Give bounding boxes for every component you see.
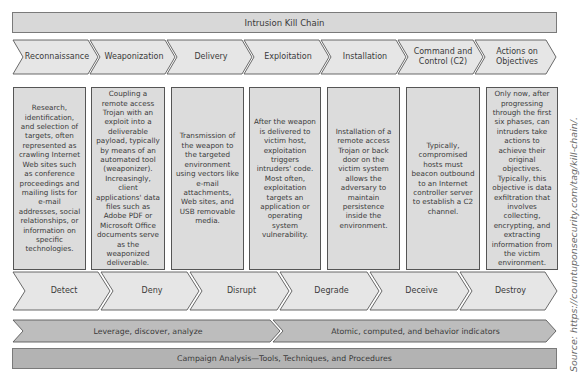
action-label-detect: Detect	[25, 272, 103, 310]
phase-description-delivery: Transmission of the weapon to the target…	[171, 87, 244, 270]
indicator-band-label-1: Leverage, discover, analyze	[23, 320, 273, 342]
phase-label-reconnaissance: Reconnaissance	[22, 40, 92, 74]
phase-label-command-and-control: Command and Control (C2)	[410, 40, 476, 74]
phase-label-installation: Installation	[330, 40, 400, 74]
action-label-destroy: Destroy	[472, 272, 549, 310]
description-text: Research, identification, and selection …	[18, 103, 81, 254]
phase-label-text: Actions on Objectives	[486, 47, 548, 67]
action-label-text: Detect	[51, 286, 78, 296]
phase-description-exploitation: After the weapon is delivered to victim …	[249, 87, 321, 270]
action-label-disrupt: Disrupt	[202, 272, 281, 310]
phase-label-text: Reconnaissance	[25, 52, 89, 62]
description-text: Typically, compromised hosts must beacon…	[411, 141, 475, 216]
source-caption: Source: https://countuponsecurity.com/ta…	[568, 62, 579, 372]
phase-description-reconnaissance: Research, identification, and selection …	[13, 87, 86, 270]
action-label-text: Deceive	[405, 286, 437, 296]
phase-label-text: Command and Control (C2)	[410, 47, 476, 67]
action-label-deny: Deny	[113, 272, 191, 310]
indicator-band-label-2: Atomic, computed, and behavior indicator…	[283, 320, 548, 342]
phase-label-exploitation: Exploitation	[253, 40, 323, 74]
phase-label-actions-on-objectives: Actions on Objectives	[486, 40, 548, 74]
action-label-text: Degrade	[314, 286, 348, 296]
description-text: After the weapon is delivered to victim …	[254, 117, 316, 239]
phase-label-delivery: Delivery	[176, 40, 246, 74]
description-text: Installation of a remote access Trojan o…	[332, 127, 395, 230]
phase-description-actions-on-objectives: Only now, after progressing through the …	[486, 87, 558, 270]
phase-description-weaponization: Coupling a remote access Trojan with an …	[91, 87, 165, 270]
action-label-deceive: Deceive	[382, 272, 461, 310]
description-text: Coupling a remote access Trojan with an …	[96, 89, 160, 268]
phase-label-weaponization: Weaponization	[99, 40, 169, 74]
phase-label-text: Delivery	[194, 52, 227, 62]
action-label-text: Deny	[142, 286, 163, 296]
phase-label-text: Exploitation	[264, 52, 312, 62]
action-label-degrade: Degrade	[292, 272, 371, 310]
description-text: Transmission of the weapon to the target…	[176, 131, 239, 225]
campaign-analysis-bar: Campaign Analysis—Tools, Techniques, and…	[12, 348, 557, 369]
phase-description-installation: Installation of a remote access Trojan o…	[327, 87, 400, 270]
action-label-text: Disrupt	[227, 286, 256, 296]
description-text: Only now, after progressing through the …	[491, 89, 553, 268]
band-label-text: Atomic, computed, and behavior indicator…	[331, 327, 500, 336]
phase-label-text: Weaponization	[105, 52, 164, 62]
action-label-text: Destroy	[495, 286, 526, 296]
phase-label-text: Installation	[343, 52, 387, 62]
phase-description-command-and-control: Typically, compromised hosts must beacon…	[406, 87, 480, 270]
band-label-text: Leverage, discover, analyze	[93, 327, 202, 336]
campaign-analysis-label: Campaign Analysis—Tools, Techniques, and…	[177, 354, 392, 363]
